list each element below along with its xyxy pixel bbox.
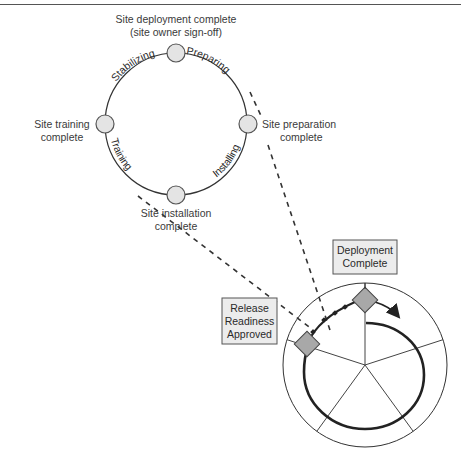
phase-stabilizing: Stabilizing (108, 46, 156, 83)
phase-preparing: Preparing (186, 44, 233, 75)
label-deployment-complete-1: Deployment (337, 244, 393, 256)
node-site-deployment (167, 44, 185, 62)
wheel-spoke (365, 365, 413, 431)
diamond-deployment-complete (352, 287, 377, 312)
label-site-installation-2: complete (155, 220, 198, 232)
wheel-spoke (317, 365, 365, 431)
label-site-training-2: complete (41, 131, 84, 143)
label-site-preparation-2: complete (280, 131, 323, 143)
milestone-arrow (375, 302, 398, 316)
label-site-training-1: Site training (34, 118, 90, 130)
node-site-installation (167, 186, 185, 204)
deployment-diagram: Stabilizing Preparing Installing Trainin… (0, 0, 461, 458)
label-release-readiness-3: Approved (227, 328, 272, 340)
label-site-installation-1: Site installation (141, 207, 212, 219)
label-deployment-complete-2: Complete (343, 257, 388, 269)
label-site-deployment-2: (site owner sign-off) (130, 26, 222, 38)
label-release-readiness-1: Release (230, 302, 269, 314)
node-site-training (96, 115, 114, 133)
wheel-progress-arc (304, 323, 424, 429)
phase-training: Training (109, 137, 135, 173)
label-release-readiness-2: Readiness (225, 315, 275, 327)
diamond-release-readiness (294, 331, 319, 356)
label-site-deployment-1: Site deployment complete (116, 13, 237, 25)
label-site-preparation-1: Site preparation (262, 118, 336, 130)
dashed-connector-preparing (250, 92, 262, 118)
wheel-spoke (365, 340, 443, 365)
node-site-preparation (239, 115, 257, 133)
milestone-path (307, 302, 355, 344)
